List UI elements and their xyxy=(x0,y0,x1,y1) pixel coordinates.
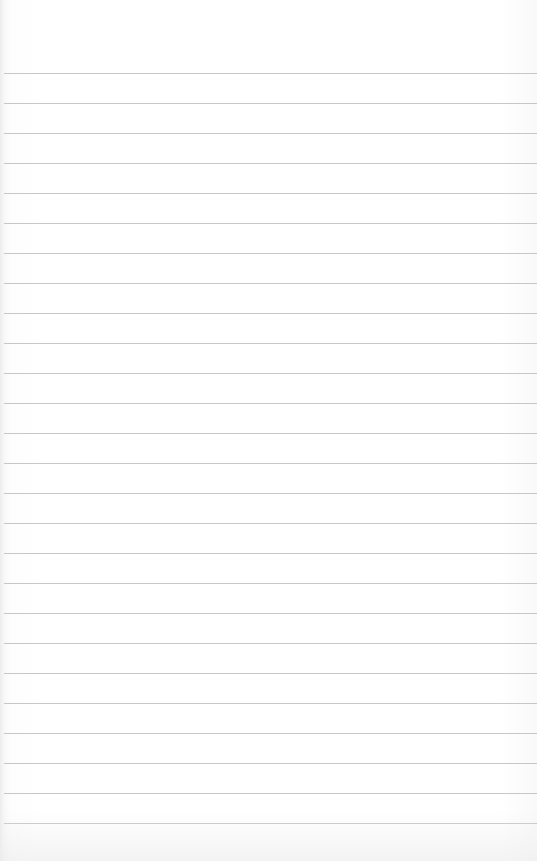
ruled-line xyxy=(4,433,537,434)
ruled-line xyxy=(4,373,537,374)
ruled-line xyxy=(4,463,537,464)
ruled-line xyxy=(4,193,537,194)
ruled-line xyxy=(4,583,537,584)
ruled-line xyxy=(4,133,537,134)
ruled-line xyxy=(4,73,537,74)
ruled-line xyxy=(4,283,537,284)
ruled-line xyxy=(4,613,537,614)
ruled-line xyxy=(4,493,537,494)
ruled-line xyxy=(4,253,537,254)
ruled-line xyxy=(4,103,537,104)
ruled-line xyxy=(4,733,537,734)
ruled-line xyxy=(4,643,537,644)
ruled-line xyxy=(4,793,537,794)
ruled-line xyxy=(4,523,537,524)
ruled-line xyxy=(4,823,537,824)
ruled-line xyxy=(4,223,537,224)
ruled-line xyxy=(4,673,537,674)
lined-paper-sheet xyxy=(0,0,537,861)
ruled-line xyxy=(4,763,537,764)
ruled-line xyxy=(4,403,537,404)
ruled-line xyxy=(4,163,537,164)
ruled-line xyxy=(4,553,537,554)
ruled-line xyxy=(4,313,537,314)
ruled-line xyxy=(4,343,537,344)
ruled-line xyxy=(4,703,537,704)
